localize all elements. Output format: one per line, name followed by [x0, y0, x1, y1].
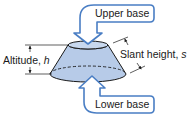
altitude-variable: h [44, 54, 50, 66]
lower-base-label: Lower base [95, 99, 149, 110]
altitude-arrow-down-icon [29, 70, 32, 74]
slant-height-label: Slant height, s [120, 49, 187, 60]
slant-arrow-up-icon [125, 39, 128, 43]
slant-height-label-text: Slant height, [120, 48, 181, 60]
frustum-shape [50, 41, 126, 82]
altitude-arrow-up-icon [29, 46, 32, 50]
altitude-label-text: Altitude, [3, 54, 44, 66]
upper-base-label: Upper base [95, 8, 149, 19]
altitude-label: Altitude, h [3, 55, 50, 66]
slant-height-variable: s [181, 48, 186, 60]
frustum-side-surface [50, 45, 126, 82]
